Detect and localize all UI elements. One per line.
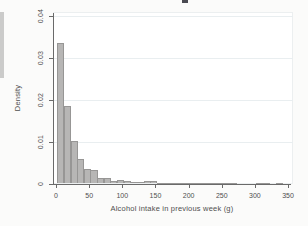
y-tick xyxy=(49,142,53,143)
x-tick-label: 100 xyxy=(116,192,128,199)
gridline xyxy=(53,58,293,59)
gridline xyxy=(53,142,293,143)
x-tick-label: 200 xyxy=(183,192,195,199)
y-tick-label: 0.02 xyxy=(37,92,44,106)
y-tick xyxy=(49,100,53,101)
y-tick-label: 0.03 xyxy=(37,50,44,64)
x-tick-label: 350 xyxy=(282,192,294,199)
y-tick xyxy=(49,184,53,185)
x-tick xyxy=(222,184,223,188)
x-tick-label: 50 xyxy=(85,192,93,199)
x-tick xyxy=(122,184,123,188)
gridline xyxy=(53,100,293,101)
y-axis-line xyxy=(53,13,54,184)
histogram-figure: 00.010.020.030.04 050100150200250300350 … xyxy=(0,0,308,226)
x-tick xyxy=(255,184,256,188)
gridline xyxy=(53,16,293,17)
cropped-text-artifact xyxy=(182,0,188,3)
y-tick-label: 0.01 xyxy=(37,134,44,148)
x-axis-label: Alcohol intake in previous week (g) xyxy=(111,204,234,213)
x-tick-label: 150 xyxy=(150,192,162,199)
x-tick-label: 0 xyxy=(54,192,58,199)
x-tick xyxy=(56,184,57,188)
x-tick xyxy=(155,184,156,188)
y-tick xyxy=(49,16,53,17)
x-tick xyxy=(189,184,190,188)
x-tick-label: 250 xyxy=(216,192,228,199)
x-tick-label: 300 xyxy=(249,192,261,199)
x-tick xyxy=(89,184,90,188)
y-tick-label: 0 xyxy=(37,181,44,185)
y-tick xyxy=(49,58,53,59)
page-edge-artifact xyxy=(0,12,4,78)
x-tick xyxy=(288,184,289,188)
plot-area xyxy=(53,12,293,184)
y-tick-label: 0.04 xyxy=(37,8,44,22)
y-axis-label: Density xyxy=(13,85,22,111)
